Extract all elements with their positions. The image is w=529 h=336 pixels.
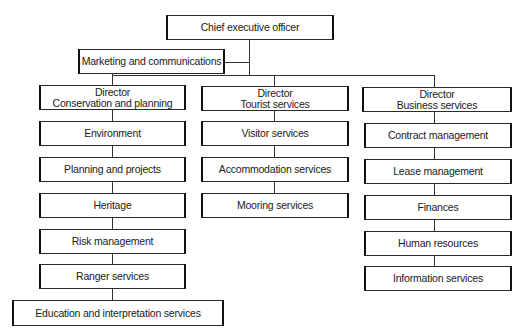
director-title: Director: [95, 87, 130, 98]
unit-finances: Finances: [364, 195, 512, 220]
unit-label: Information services: [393, 273, 483, 284]
connector-marketing: [225, 62, 250, 63]
connector-director-3: [434, 75, 435, 87]
unit-label: Mooring services: [237, 200, 313, 211]
unit-mooring-services: Mooring services: [201, 193, 349, 218]
unit-label: Planning and projects: [64, 164, 161, 175]
unit-ranger-services: Ranger services: [39, 264, 186, 289]
unit-label: Contract management: [388, 130, 488, 141]
unit-heritage: Heritage: [39, 193, 186, 218]
unit-label: Finances: [417, 202, 458, 213]
marketing-box: Marketing and communications: [78, 49, 225, 74]
unit-visitor-services: Visitor services: [201, 121, 349, 146]
director-conservation-box: Director Conservation and planning: [39, 85, 186, 110]
ceo-box: Chief executive officer: [166, 15, 334, 40]
director-business-box: Director Business services: [362, 87, 512, 112]
unit-label: Risk management: [72, 236, 154, 247]
unit-label: Human resources: [398, 238, 478, 249]
director-title: Director: [257, 88, 292, 99]
unit-label: Education and interpretation services: [35, 308, 200, 319]
director-tourist-box: Director Tourist services: [201, 86, 349, 111]
unit-education-interpretation: Education and interpretation services: [12, 300, 224, 326]
marketing-label: Marketing and communications: [82, 56, 222, 67]
connector-ceo-down: [249, 39, 250, 75]
director-title: Director: [419, 89, 454, 100]
unit-planning-projects: Planning and projects: [39, 157, 186, 182]
unit-label: Visitor services: [241, 128, 308, 139]
ceo-label: Chief executive officer: [201, 22, 300, 33]
director-dept: Tourist services: [240, 99, 309, 110]
unit-human-resources: Human resources: [364, 231, 512, 256]
unit-information-services: Information services: [364, 266, 512, 291]
unit-label: Accommodation services: [219, 164, 331, 175]
unit-environment: Environment: [39, 121, 186, 146]
unit-label: Ranger services: [76, 271, 149, 282]
unit-contract-management: Contract management: [364, 123, 512, 148]
unit-label: Lease management: [393, 166, 483, 177]
unit-label: Environment: [84, 128, 141, 139]
unit-label: Heritage: [93, 200, 131, 211]
connector-director-2: [274, 75, 275, 86]
unit-accommodation-services: Accommodation services: [201, 157, 349, 182]
unit-lease-management: Lease management: [364, 159, 512, 184]
unit-risk-management: Risk management: [39, 229, 186, 254]
director-dept: Conservation and planning: [53, 98, 173, 109]
director-dept: Business services: [397, 100, 478, 111]
